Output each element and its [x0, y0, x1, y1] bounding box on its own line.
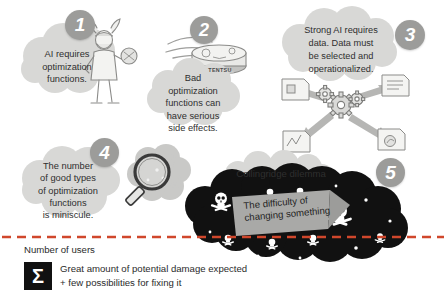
panel-3-badge-number: 3	[405, 24, 416, 46]
panel-2-text: Bad optimization functions can have seri…	[152, 72, 234, 135]
legend-line-1: Great amount of potential damage expecte…	[60, 263, 247, 274]
panel-5-badge: 5	[376, 158, 405, 187]
document-icon-top-right	[382, 75, 409, 96]
panel-2-badge-number: 2	[199, 20, 209, 41]
panel-1-badge: 1	[65, 10, 95, 40]
panel-1-badge-number: 1	[75, 14, 86, 36]
panel-2-badge: 2	[190, 16, 218, 44]
panel-3-text: Strong AI requires data. Data must be se…	[290, 24, 392, 76]
sigma-icon: Σ	[24, 262, 52, 290]
panel-5-title: Collingridge dilemma	[235, 168, 327, 179]
sigma-glyph: Σ	[32, 265, 44, 288]
panel-3-badge: 3	[395, 20, 425, 50]
gears-icon	[317, 86, 365, 119]
document-icon-top-left	[282, 79, 309, 100]
infographic-canvas: 1 2 3 4 5 AI requires optimization funct…	[0, 0, 446, 306]
panel-5-badge-number: 5	[385, 162, 396, 184]
panel-1-text: AI requires optimization functions.	[24, 48, 110, 86]
vacuum-brand-label: TENTSU	[198, 67, 242, 73]
legend-line-2: + few possibilities for fixing it	[60, 277, 181, 288]
panel-4-text: The number of good types of optimization…	[26, 160, 110, 221]
document-icon-bottom-left	[283, 131, 310, 152]
axis-label-number-of-users: Number of users	[24, 245, 95, 256]
document-icon-bottom-right	[378, 129, 405, 150]
